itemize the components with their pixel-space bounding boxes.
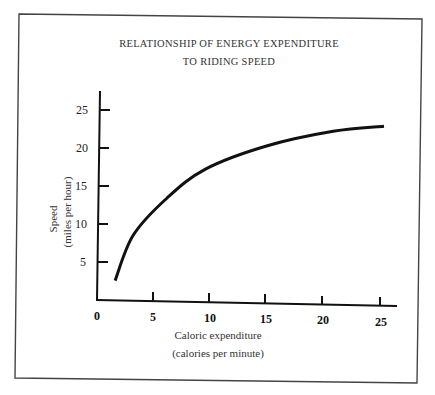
x-axis xyxy=(96,300,397,306)
x-tick-label: 15 xyxy=(260,312,272,326)
x-axis-sublabel: (calories per minute) xyxy=(172,347,264,360)
chart: RELATIONSHIP OF ENERGY EXPENDITURE TO RI… xyxy=(0,0,435,395)
y-tick-labels: 25 20 15 10 5 xyxy=(75,103,88,269)
x-tick-label: 20 xyxy=(317,313,329,327)
x-tick-label: 5 xyxy=(150,310,156,324)
y-axis-label: Speed xyxy=(47,205,59,232)
chart-title-line-1: RELATIONSHIP OF ENERGY EXPENDITURE xyxy=(119,38,339,49)
chart-frame xyxy=(15,14,422,383)
x-axis-label: Caloric expenditure xyxy=(174,329,261,341)
x-tick-labels: 0 5 10 15 20 25 xyxy=(94,309,387,329)
data-curve xyxy=(115,126,384,280)
y-tick-label: 10 xyxy=(75,217,87,231)
y-axis xyxy=(97,91,100,300)
y-tick-label: 5 xyxy=(80,255,86,269)
y-axis-sublabel: (miles per hour) xyxy=(61,176,74,247)
x-tick-label: 10 xyxy=(204,311,216,325)
y-tick-label: 20 xyxy=(76,141,88,155)
x-tick-label: 0 xyxy=(94,309,100,323)
y-tick-label: 15 xyxy=(75,179,87,193)
x-tick-label: 25 xyxy=(375,315,387,329)
chart-title-line-2: TO RIDING SPEED xyxy=(183,56,276,67)
y-tick-label: 25 xyxy=(76,103,88,117)
